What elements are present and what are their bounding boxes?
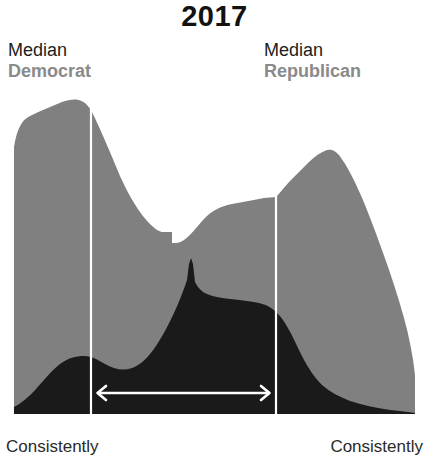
median-democrat-label: Median Democrat	[8, 40, 91, 82]
median-republican-label: Median Republican	[264, 40, 361, 82]
axis-end-label-left: Consistently	[6, 437, 99, 457]
median-democrat-line1: Median	[8, 40, 91, 61]
median-republican-line2: Republican	[264, 61, 361, 82]
axis-end-label-right: Consistently	[330, 437, 423, 457]
median-democrat-line2: Democrat	[8, 61, 91, 82]
median-republican-line1: Median	[264, 40, 361, 61]
